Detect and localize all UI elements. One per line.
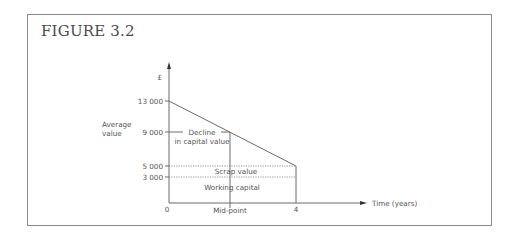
y-tick-13000: 13 000 xyxy=(138,97,164,106)
scrap-value-label: Scrap value xyxy=(215,167,258,176)
x-tick-4: 4 xyxy=(294,205,299,214)
y-tick-3000: 3 000 xyxy=(142,173,163,182)
x-tick-0: 0 xyxy=(165,205,170,214)
y-unit-label: £ xyxy=(157,73,162,82)
chart-canvas: £ 13 000 9 000 5 000 3 000 Average value… xyxy=(0,0,517,243)
x-axis-arrow-icon xyxy=(360,201,367,205)
decline-label-line2: in capital value xyxy=(175,137,230,146)
y-tick-9000: 9 000 xyxy=(142,128,163,137)
y-tick-5000: 5 000 xyxy=(142,162,163,171)
midpoint-label: Mid-point xyxy=(213,206,247,215)
y-axis-arrow-icon xyxy=(167,62,171,69)
y-axis-label-line1: Average xyxy=(102,120,132,129)
y-axis-label-line2: value xyxy=(102,129,122,138)
x-axis-label: Time (years) xyxy=(371,199,417,208)
decline-label-line1: Decline xyxy=(189,128,216,137)
working-capital-label: Working capital xyxy=(204,183,260,192)
